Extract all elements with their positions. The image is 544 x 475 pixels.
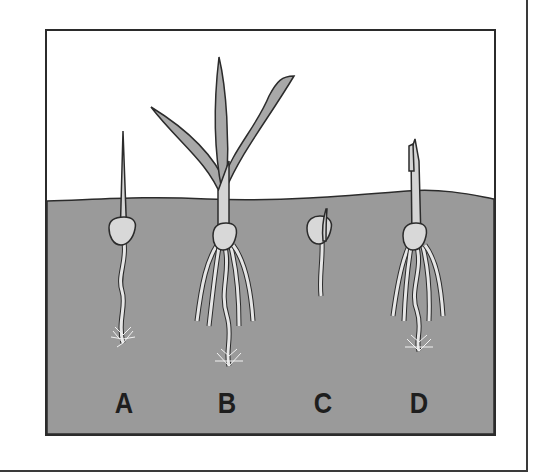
diagram-illustration [47, 31, 494, 434]
label-b: B [218, 386, 236, 420]
seedling-diagram: A B C D [45, 29, 496, 436]
label-a: A [115, 386, 133, 420]
outer-frame-bottom [0, 470, 528, 472]
outer-frame-right [526, 0, 528, 472]
label-c: C [314, 386, 332, 420]
label-d: D [410, 386, 428, 420]
